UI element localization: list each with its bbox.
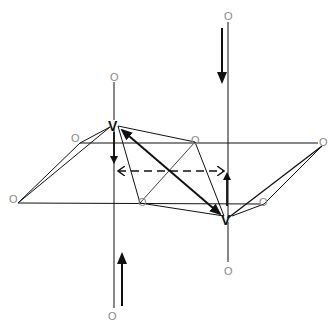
oxygen-label-upper-left: O [71, 132, 80, 144]
rhombus-left [118, 126, 140, 203]
left-edge-1 [18, 143, 80, 203]
vanadium-label-lower: V [221, 212, 231, 228]
oxygen-label-upper-right: O [191, 134, 200, 146]
oxygen-label-apical-upper: O [110, 71, 119, 83]
right-edge-3 [264, 146, 322, 204]
oxygen-label-bottom-far: O [108, 310, 117, 322]
oxygen-label-lower-right: O [259, 196, 268, 208]
left-edge-3 [80, 127, 110, 143]
oxygen-label-top-far: O [224, 10, 233, 22]
vo-octahedra-diagram: V V O O O O O O O O O O [0, 0, 332, 324]
left-edge-2 [18, 127, 110, 203]
oxygen-label-right: O [319, 136, 328, 148]
rhombus-top [118, 126, 195, 142]
oxygen-label-lower-mid: O [138, 196, 147, 208]
vanadium-label-upper: V [108, 118, 118, 134]
rhombus-cross [140, 142, 195, 203]
right-edge-1 [228, 146, 322, 218]
oxygen-label-left: O [9, 193, 18, 205]
oxygen-label-apical-lower: O [224, 265, 233, 277]
rhombus-bottom [140, 203, 224, 216]
